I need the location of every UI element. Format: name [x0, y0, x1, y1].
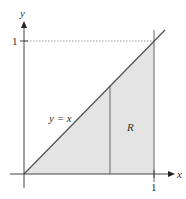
- y-axis-arrow-icon: [21, 21, 27, 28]
- y-axis-label: y: [19, 7, 25, 19]
- curve-label: y = x: [48, 112, 72, 124]
- x-axis-arrow-icon: [168, 171, 175, 177]
- x-axis-label: x: [176, 168, 182, 180]
- y-tick-label: 1: [12, 35, 18, 47]
- x-tick-label: 1: [151, 181, 157, 193]
- region-diagram: y x 1 1 y = x R: [0, 0, 186, 199]
- region-label: R: [126, 121, 134, 133]
